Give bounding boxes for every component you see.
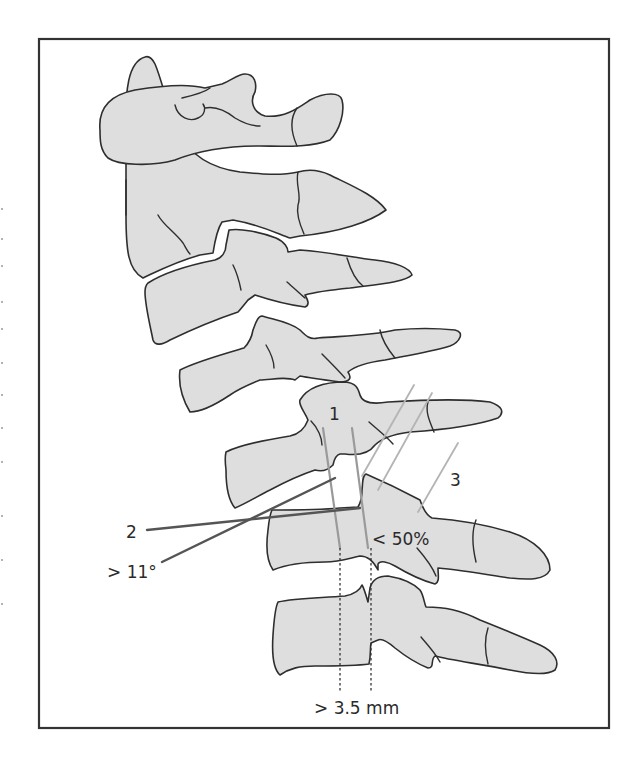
cervical-spine-diagram: 1 2 3 > 11° < 50% > 3.5 mm: [0, 0, 638, 759]
label-translation-distance: > 3.5 mm: [314, 698, 399, 718]
label-angle: > 11°: [107, 562, 157, 582]
left-edge-marks: [1, 208, 3, 605]
label-line-3: 3: [450, 470, 461, 490]
label-translation-percent: < 50%: [372, 529, 429, 549]
label-line-1: 1: [329, 404, 340, 424]
label-line-2: 2: [126, 522, 137, 542]
vertebra-c7: [273, 576, 557, 675]
